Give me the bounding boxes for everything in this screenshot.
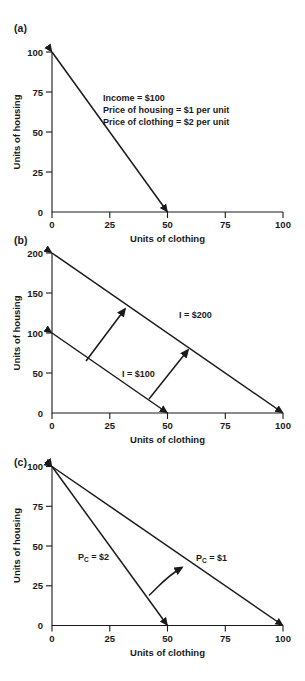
- panel-a-annotation-income: Income = $100: [103, 93, 165, 103]
- panel-b-xlabel-75: 75: [220, 420, 231, 431]
- panel-b-label-outer-line: I = $200: [179, 310, 212, 320]
- panel-b: (b) 200 150 100 50: [0, 230, 305, 452]
- budget-constraint-figure: (a) 100 75 50 25 0: [0, 0, 305, 681]
- panel-a-axes: [52, 52, 283, 212]
- panel-c-label-flat-line: PC = $1: [196, 553, 227, 565]
- panel-a-y-axis-title: Units of housing: [11, 94, 22, 169]
- panel-a-plot: 100 75 50 25 0 0 25 50 75 100 Units of c…: [0, 18, 305, 240]
- panel-c-ylabel-25: 25: [32, 580, 43, 591]
- panel-c-xlabel-100: 100: [275, 633, 291, 644]
- panel-b-ylabel-200: 200: [27, 248, 43, 259]
- panel-c-ylabel-100: 100: [27, 461, 43, 472]
- panel-b-ylabel-50: 50: [32, 368, 43, 379]
- panel-c-xlabel-0: 0: [49, 633, 54, 644]
- panel-a-annotation-price-housing: Price of housing = $1 per unit: [103, 105, 229, 115]
- panel-b-xlabel-25: 25: [105, 420, 116, 431]
- panel-c-budget-line-flat: [52, 467, 283, 626]
- panel-c-x-axis-title: Units of clothing: [130, 647, 205, 658]
- panel-c-xlabel-50: 50: [162, 633, 173, 644]
- panel-a-xlabel-0: 0: [49, 219, 54, 230]
- panel-c-xlabel-75: 75: [220, 633, 231, 644]
- panel-b-shift-arrow-right: [149, 350, 188, 399]
- panel-a-budget-line: [52, 52, 168, 212]
- panel-c-ylabel-0: 0: [38, 620, 43, 631]
- panel-b-ylabel-150: 150: [27, 288, 43, 299]
- panel-a-xlabel-75: 75: [220, 219, 231, 230]
- panel-a-ylabel-25: 25: [32, 167, 43, 178]
- panel-b-xlabel-0: 0: [49, 420, 54, 431]
- panel-b-shift-arrow-left: [86, 309, 125, 361]
- panel-b-x-axis-title: Units of clothing: [130, 434, 205, 445]
- panel-b-xlabel-50: 50: [162, 420, 173, 431]
- panel-a-ylabel-50: 50: [32, 127, 43, 138]
- panel-a-ylabel-0: 0: [38, 207, 43, 218]
- panel-c-ylabel-50: 50: [32, 541, 43, 552]
- panel-c-y-axis-title: Units of housing: [11, 508, 22, 583]
- panel-b-label-inner-line: I = $100: [122, 369, 155, 379]
- panel-b-xlabel-100: 100: [275, 420, 291, 431]
- panel-b-ylabel-100: 100: [27, 328, 43, 339]
- panel-a-annotation-price-clothing: Price of clothing = $2 per unit: [103, 117, 229, 127]
- panel-c-label-steep-line: PC = $2: [78, 552, 109, 564]
- panel-a: (a) 100 75 50 25 0: [0, 18, 305, 230]
- panel-c-pivot-arrow: [149, 568, 182, 596]
- panel-c: (c) 100 75 50 25: [0, 452, 305, 667]
- panel-c-budget-line-steep: [52, 467, 168, 626]
- panel-c-plot: 100 75 50 25 0 0 25 50 75 100 Units of c…: [0, 452, 305, 674]
- panel-a-xlabel-50: 50: [162, 219, 173, 230]
- panel-b-ylabel-0: 0: [38, 408, 43, 419]
- panel-b-budget-line-outer: [52, 253, 283, 413]
- panel-b-y-axis-title: Units of housing: [11, 295, 22, 370]
- panel-a-xlabel-100: 100: [275, 219, 291, 230]
- panel-a-ylabel-75: 75: [32, 87, 43, 98]
- panel-a-ylabel-100: 100: [27, 47, 43, 58]
- panel-c-xlabel-25: 25: [105, 633, 116, 644]
- panel-c-ylabel-75: 75: [32, 501, 43, 512]
- panel-b-plot: 200 150 100 50 0 0 25 50 75 100 Units of…: [0, 230, 305, 452]
- panel-a-xlabel-25: 25: [105, 219, 116, 230]
